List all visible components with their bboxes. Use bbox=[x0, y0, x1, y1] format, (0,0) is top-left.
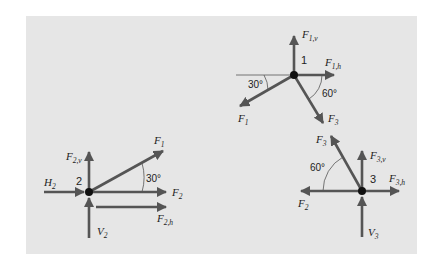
force-arrow-f3 bbox=[331, 136, 362, 191]
node-1-diagram: 1 F1,v F1,h F1 F3 30° 60° bbox=[236, 28, 341, 127]
force-arrow-f3 bbox=[294, 75, 323, 123]
label-f2h: F2,h bbox=[156, 212, 173, 227]
angle-arc-60 bbox=[309, 75, 322, 99]
node-2-diagram: 2 F2,v H2 F1 F2 F2,h V2 30° bbox=[43, 134, 183, 240]
label-h2: H2 bbox=[43, 176, 56, 191]
label-f3h: F3,h bbox=[388, 172, 405, 187]
label-f1: F1 bbox=[237, 112, 248, 127]
label-f3: F3 bbox=[327, 112, 339, 127]
force-arrow-f1 bbox=[89, 151, 163, 192]
node-1-joint bbox=[290, 71, 298, 79]
label-f3v: F3,v bbox=[369, 149, 386, 164]
label-f1h: F1,h bbox=[324, 56, 341, 71]
angle-arc-60 bbox=[323, 157, 343, 191]
node-3-number: 3 bbox=[370, 173, 376, 185]
angle-arc-30 bbox=[264, 75, 268, 90]
angle-label-60: 60° bbox=[310, 162, 325, 173]
angle-arc-30 bbox=[142, 163, 144, 192]
node-3-joint bbox=[358, 187, 366, 195]
node-1-number: 1 bbox=[301, 54, 307, 66]
node-2-number: 2 bbox=[76, 175, 82, 187]
label-f2v: F2,v bbox=[65, 150, 82, 165]
label-f1v: F1,v bbox=[301, 28, 318, 43]
label-v3: V3 bbox=[368, 226, 379, 241]
label-f2: F2 bbox=[171, 186, 183, 201]
label-f2: F2 bbox=[297, 197, 309, 212]
node-3-diagram: 3 F3 F3,v F3,h F2 V3 60° bbox=[297, 133, 405, 241]
node-2-joint bbox=[85, 188, 93, 196]
label-f1: F1 bbox=[153, 134, 164, 149]
label-v2: V2 bbox=[97, 225, 108, 240]
angle-label-60: 60° bbox=[322, 88, 337, 99]
free-body-diagrams: 1 F1,v F1,h F1 F3 30° 60° 2 F2,v H2 F1 F… bbox=[0, 0, 437, 264]
angle-label-30: 30° bbox=[248, 79, 263, 90]
label-f3: F3 bbox=[315, 133, 327, 148]
angle-label-30: 30° bbox=[146, 173, 161, 184]
